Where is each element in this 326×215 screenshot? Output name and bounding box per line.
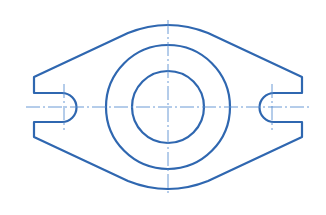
flange-drawing bbox=[0, 0, 326, 215]
